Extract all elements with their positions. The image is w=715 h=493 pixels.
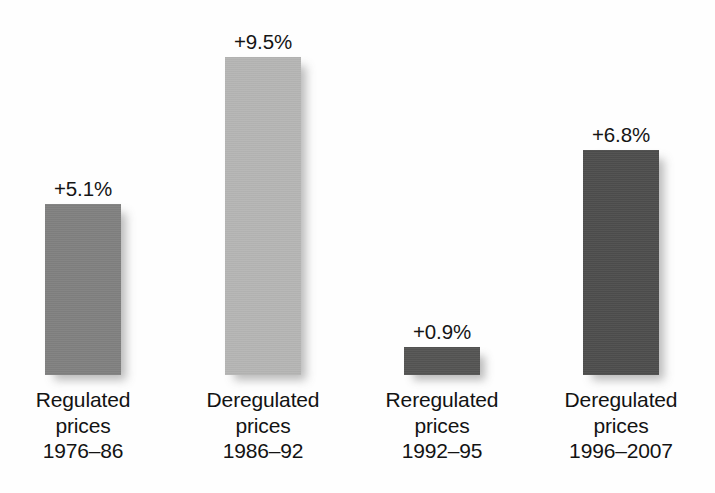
bar-chart-figure: +5.1% +9.5% +0.9% +6.8% Regulated prices… (0, 0, 715, 493)
category-label-3-line-1: Reregulated (359, 387, 525, 413)
category-label-1-line-3: 1976–86 (0, 438, 166, 464)
category-label-4-line-2: prices (538, 413, 704, 439)
bar-value-label-2: +9.5% (234, 32, 292, 53)
bar-group-4: +6.8% (583, 150, 659, 375)
bar-group-1: +5.1% (45, 204, 121, 375)
bar-value-label-3: +0.9% (413, 322, 471, 343)
category-label-3: Reregulated prices 1992–95 (359, 387, 525, 464)
bar-group-2: +9.5% (225, 57, 301, 375)
category-label-2-line-3: 1986–92 (180, 438, 346, 464)
plot-area: +5.1% +9.5% +0.9% +6.8% (0, 0, 715, 375)
bar-rect-3 (404, 347, 480, 375)
category-label-2: Deregulated prices 1986–92 (180, 387, 346, 464)
bar-value-label-4: +6.8% (592, 125, 650, 146)
category-label-3-line-2: prices (359, 413, 525, 439)
category-label-4: Deregulated prices 1996–2007 (538, 387, 704, 464)
category-label-1-line-2: prices (0, 413, 166, 439)
bar-rect-2 (225, 57, 301, 375)
category-label-4-line-1: Deregulated (538, 387, 704, 413)
bar-rect-1 (45, 204, 121, 375)
bar-group-3: +0.9% (404, 347, 480, 375)
category-label-2-line-2: prices (180, 413, 346, 439)
category-label-4-line-3: 1996–2007 (538, 438, 704, 464)
category-label-1-line-1: Regulated (0, 387, 166, 413)
category-label-2-line-1: Deregulated (180, 387, 346, 413)
category-label-3-line-3: 1992–95 (359, 438, 525, 464)
bar-rect-4 (583, 150, 659, 375)
category-labels-row: Regulated prices 1976–86 Deregulated pri… (0, 375, 715, 493)
bar-value-label-1: +5.1% (54, 179, 112, 200)
category-label-1: Regulated prices 1976–86 (0, 387, 166, 464)
